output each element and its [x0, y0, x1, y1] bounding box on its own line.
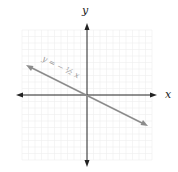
coordinate-plane — [0, 0, 178, 172]
line-left-arrow — [26, 65, 34, 71]
x-axis-right-arrow — [150, 93, 157, 98]
y-axis-up-arrow — [85, 23, 90, 30]
x-axis-label: x — [165, 88, 171, 101]
y-axis-down-arrow — [85, 160, 90, 167]
x-axis-left-arrow — [16, 93, 23, 98]
y-axis-label: y — [82, 4, 88, 17]
